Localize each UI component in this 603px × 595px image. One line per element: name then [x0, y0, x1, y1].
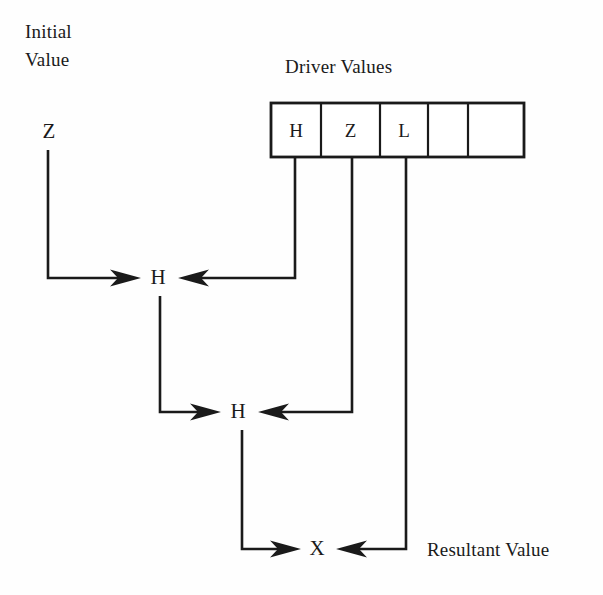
resolution-node-0-symbol: H: [147, 267, 169, 288]
wire-initial-to-node1: [48, 150, 120, 278]
wire-node1-to-node2: [160, 296, 200, 412]
resolution-node-1-symbol: H: [227, 401, 249, 422]
resultant-value-caption: Resultant Value: [427, 540, 549, 559]
initial-value-caption-line2: Value: [25, 50, 69, 69]
driver-cell-1-label[interactable]: Z: [321, 121, 380, 140]
wire-driver2-to-node2: [280, 157, 352, 412]
diagram-canvas: Initial Value Driver Values Resultant Va…: [0, 0, 603, 595]
wire-driver1-to-node1: [200, 157, 295, 278]
driver-cell-2-label[interactable]: L: [380, 121, 428, 140]
resolution-node-2-symbol: X: [306, 538, 328, 559]
initial-value-symbol: Z: [38, 121, 60, 142]
wire-driver3-to-node3: [358, 157, 406, 549]
initial-value-caption-line1: Initial: [25, 22, 72, 41]
driver-cell-0-label[interactable]: H: [271, 121, 321, 140]
diagram-wires: [0, 0, 603, 595]
wire-node2-to-node3: [242, 430, 280, 549]
driver-values-caption: Driver Values: [285, 57, 392, 76]
